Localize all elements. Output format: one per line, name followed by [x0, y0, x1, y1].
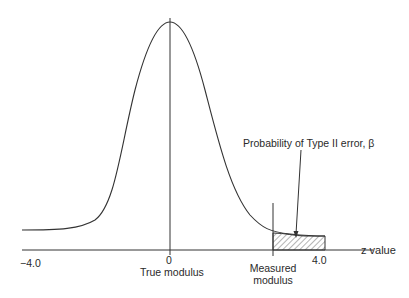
annotation-leader-line: [296, 150, 301, 234]
tick-label-pos4: 4.0: [312, 254, 327, 266]
measured-modulus-label: Measured modulus: [245, 262, 301, 286]
diagram-canvas: [0, 0, 409, 298]
axis-label-z-value: z value: [361, 244, 396, 256]
tick-label-zero: 0: [166, 254, 172, 266]
true-modulus-label: True modulus: [140, 266, 200, 278]
measured-modulus-line1: Measured: [245, 262, 301, 274]
axis-label-text: z value: [361, 244, 396, 256]
measured-modulus-line2: modulus: [245, 274, 301, 286]
tick-label-neg4: −4.0: [20, 257, 41, 269]
type-ii-error-annotation: Probability of Type II error, β: [243, 137, 374, 149]
distribution-curve: [22, 22, 325, 236]
